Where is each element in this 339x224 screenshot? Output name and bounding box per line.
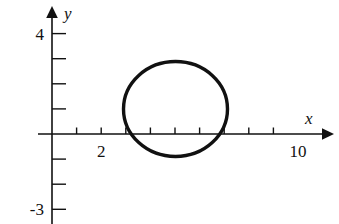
y-axis-label: y <box>62 4 72 23</box>
plot-figure: y x 4 -3 2 10 <box>0 0 339 224</box>
x-axis <box>38 128 334 140</box>
x-tick-label-2: 2 <box>97 142 106 161</box>
y-axis <box>46 6 66 224</box>
y-axis-arrowhead <box>46 6 58 18</box>
x-axis-label: x <box>304 109 313 128</box>
y-tick-label-4: 4 <box>36 25 45 44</box>
y-tick-label-neg3: -3 <box>30 200 44 219</box>
x-axis-arrowhead <box>322 128 334 140</box>
x-tick-label-10: 10 <box>290 142 307 161</box>
plot-canvas: y x 4 -3 2 10 <box>0 0 339 224</box>
circle-curve <box>124 62 228 157</box>
